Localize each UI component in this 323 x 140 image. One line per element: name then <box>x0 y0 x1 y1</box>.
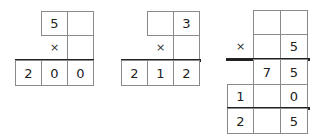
p3-total-hundreds[interactable]: 2 <box>227 108 254 134</box>
p2-product-hundreds[interactable]: 2 <box>121 60 148 86</box>
p1-multiplier-ones[interactable] <box>67 35 94 60</box>
p3-multiplier-tens[interactable] <box>253 34 281 59</box>
p3-multiplicand-ones[interactable] <box>280 10 308 35</box>
p2-product-ones[interactable]: 2 <box>173 60 200 86</box>
p1-times-sign: × <box>41 35 68 60</box>
p3-partial2-tens[interactable] <box>253 84 281 109</box>
p3-multiplier-ones[interactable]: 5 <box>280 34 308 59</box>
p1-multiplicand-ones[interactable] <box>67 11 94 36</box>
p2-product-tens[interactable]: 1 <box>147 60 174 86</box>
p3-partial2-hundreds[interactable]: 1 <box>227 84 254 109</box>
p3-partial1-tens[interactable]: 7 <box>253 59 281 85</box>
p3-times-sign: × <box>227 34 254 59</box>
p2-multiplier-ones[interactable] <box>173 35 200 60</box>
p1-multiplicand-tens[interactable]: 5 <box>41 11 68 36</box>
p3-partial1-ones[interactable]: 5 <box>280 59 308 85</box>
p2-times-sign: × <box>147 35 174 60</box>
p1-product-tens[interactable]: 0 <box>41 60 68 86</box>
p2-multiplicand-ones[interactable]: 3 <box>173 11 200 36</box>
p3-multiplicand-tens[interactable] <box>253 10 281 35</box>
p3-partial2-ones[interactable]: 0 <box>280 84 308 109</box>
p2-multiplicand-tens[interactable] <box>147 11 174 36</box>
p1-product-ones[interactable]: 0 <box>67 60 94 86</box>
p3-total-tens[interactable] <box>253 108 281 134</box>
p3-total-ones[interactable]: 5 <box>280 108 308 134</box>
p1-product-hundreds[interactable]: 2 <box>15 60 42 86</box>
